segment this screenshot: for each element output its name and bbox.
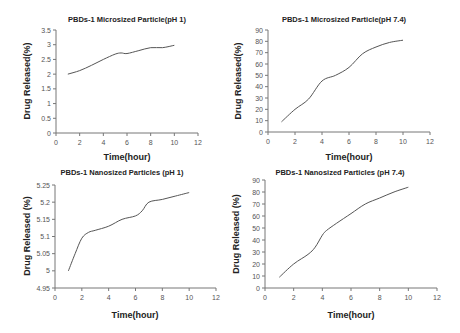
y-tick-label: 40 [255, 83, 263, 90]
y-tick-label: 3 [47, 41, 51, 48]
y-tick-label: 5.1 [40, 233, 50, 240]
release-curve [68, 45, 174, 74]
y-tick-label: 5.15 [36, 216, 50, 223]
y-tick-label: 1 [47, 100, 51, 107]
x-tick-label: 8 [149, 139, 153, 146]
y-tick-label: 60 [255, 61, 263, 68]
y-tick-label: 5.25 [36, 182, 50, 189]
y-tick-label: 2 [47, 71, 51, 78]
y-tick-label: 40 [252, 237, 260, 244]
y-tick-label: 50 [255, 72, 263, 79]
x-tick-label: 12 [212, 294, 220, 301]
y-tick-label: 70 [252, 201, 260, 208]
x-axis-label: Time(hour) [326, 152, 373, 162]
x-tick-label: 6 [347, 138, 351, 145]
x-tick-label: 4 [320, 138, 324, 145]
x-tick-label: 0 [266, 138, 270, 145]
x-tick-label: 10 [170, 139, 178, 146]
y-tick-label: 2.5 [41, 56, 51, 63]
release-curve [68, 193, 189, 271]
chart-title: PBDs-1 Microsized Particle(pH 1) [68, 15, 186, 24]
y-tick-label: 5.05 [36, 250, 50, 257]
y-axis-label: Drug Released (%) [231, 194, 241, 274]
chart-microsized-ph1: PBDs-1 Microsized Particle(pH 1) Time(ho… [22, 15, 202, 162]
y-tick-label: 3.5 [41, 27, 51, 34]
y-axis-label: Drug Released (%) [22, 196, 32, 276]
x-tick-label: 0 [263, 294, 267, 301]
y-tick-label: 70 [255, 49, 263, 56]
x-tick-label: 4 [101, 139, 105, 146]
x-tick-label: 12 [426, 138, 434, 145]
x-tick-label: 10 [399, 138, 407, 145]
x-tick-label: 8 [160, 294, 164, 301]
y-tick-label: 0 [47, 130, 51, 137]
y-tick-label: 0 [259, 129, 263, 136]
y-tick-label: 50 [252, 225, 260, 232]
x-tick-label: 4 [107, 294, 111, 301]
y-tick-label: 80 [252, 189, 260, 196]
x-tick-label: 2 [78, 139, 82, 146]
y-tick-label: 20 [255, 106, 263, 113]
chart-title: PBDs-1 Microsized Particle(pH 7.4) [282, 15, 407, 24]
x-tick-label: 2 [80, 294, 84, 301]
x-tick-label: 12 [433, 294, 441, 301]
y-tick-label: 30 [255, 95, 263, 102]
y-tick-label: 5 [46, 267, 50, 274]
y-tick-label: 10 [252, 273, 260, 280]
x-tick-label: 10 [404, 294, 412, 301]
y-tick-label: 4.95 [36, 285, 50, 292]
x-tick-label: 6 [134, 294, 138, 301]
x-axis-label: Time(hour) [112, 310, 159, 320]
y-tick-label: 90 [255, 27, 263, 34]
x-tick-label: 6 [349, 294, 353, 301]
y-tick-label: 30 [252, 249, 260, 256]
y-axis-label: Drug Released(%) [233, 42, 243, 119]
x-tick-label: 2 [292, 294, 296, 301]
x-axis-label: Time(hour) [328, 310, 375, 320]
x-tick-label: 8 [378, 294, 382, 301]
y-tick-label: 0 [256, 285, 260, 292]
x-tick-label: 0 [54, 139, 58, 146]
chart-nanosized-ph1: PBDs-1 Nanosized Particles (pH 1) Time(h… [22, 168, 220, 320]
figure: PBDs-1 Microsized Particle(pH 1) Time(ho… [0, 0, 460, 333]
y-tick-label: 0.5 [41, 115, 51, 122]
x-tick-label: 2 [293, 138, 297, 145]
y-tick-label: 5.2 [40, 199, 50, 206]
y-tick-label: 1.5 [41, 85, 51, 92]
release-curve [279, 187, 408, 277]
release-curve [282, 40, 404, 122]
y-tick-label: 80 [255, 38, 263, 45]
x-tick-label: 8 [374, 138, 378, 145]
chart-microsized-ph7-4: PBDs-1 Microsized Particle(pH 7.4) Time(… [233, 15, 434, 162]
y-tick-label: 20 [252, 261, 260, 268]
chart-title: PBDs-1 Nanosized Particles (pH 7.4) [275, 168, 405, 177]
chart-title: PBDs-1 Nanosized Particles (pH 1) [61, 168, 184, 177]
y-tick-label: 90 [252, 177, 260, 184]
y-tick-label: 10 [255, 117, 263, 124]
x-axis-label: Time(hour) [104, 152, 151, 162]
x-tick-label: 12 [194, 139, 202, 146]
x-tick-label: 10 [185, 294, 193, 301]
chart-nanosized-ph7-4: PBDs-1 Nanosized Particles (pH 7.4) Time… [231, 168, 441, 320]
x-tick-label: 0 [53, 294, 57, 301]
x-tick-label: 6 [125, 139, 129, 146]
x-tick-label: 4 [320, 294, 324, 301]
y-tick-label: 60 [252, 213, 260, 220]
y-axis-label: Drug Released(%) [22, 42, 32, 119]
